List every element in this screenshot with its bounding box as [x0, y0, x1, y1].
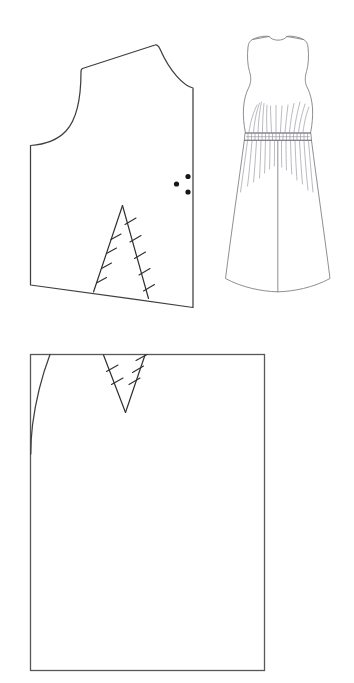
notch-dot-upper-right	[185, 174, 190, 179]
skirt-block-outline	[31, 355, 265, 671]
dress-waistband	[244, 133, 311, 141]
skirt-v-dart	[104, 355, 148, 413]
bodice-outline	[31, 45, 194, 308]
bodice-pattern-piece: Bodice Front Pattern Piece	[0, 0, 215, 330]
dress-skirt-gathers	[241, 141, 314, 192]
notch-dot-left	[174, 181, 179, 186]
waistband-shirring	[247, 134, 310, 141]
skirt-curved-side-seam	[31, 355, 50, 455]
notch-dots	[174, 174, 191, 195]
dress-bodice-outline	[243, 36, 312, 133]
skirt-pattern-piece: Skirt Pattern Piece	[0, 330, 300, 683]
skirt-dart-leg-left	[104, 355, 126, 413]
pattern-sheet: Sewing Pattern Sheet Bodice Front Patter…	[0, 0, 354, 683]
dart-leg-left	[94, 206, 123, 293]
bodice-waist-dart	[94, 206, 155, 299]
dart-hatch-marks-left	[97, 234, 122, 283]
dress-neckline	[269, 37, 287, 41]
notch-dot-lower-right	[185, 189, 190, 194]
dress-bodice-gathers	[249, 102, 309, 132]
skirt-dart-hatch-right	[129, 355, 147, 385]
skirt-dart-leg-right	[126, 355, 146, 413]
dress-technical-flat: Sleeveless Gathered-Waist Dress	[222, 20, 354, 310]
